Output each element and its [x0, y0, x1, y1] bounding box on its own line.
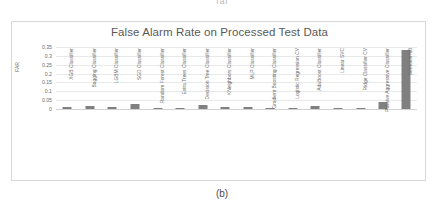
- bar-slot: [259, 47, 282, 109]
- x-label-slot: Linear SVC: [327, 110, 350, 178]
- x-tick-label: LGBM Classifier: [114, 48, 119, 112]
- x-tick-label: Random Forest Classifier: [160, 48, 165, 112]
- y-axis-ticks: 00.050.10.150.20.250.30.35: [12, 47, 54, 109]
- bar-slot: [349, 47, 372, 109]
- x-label-slot: AdaBoost Classifier: [304, 110, 327, 178]
- bar-slot: [169, 47, 192, 109]
- bar-slot: [237, 47, 260, 109]
- bar-slot: [372, 47, 395, 109]
- x-label-slot: Extra Trees Classifier: [169, 110, 192, 178]
- y-tick-label: 0.2: [45, 71, 52, 76]
- x-label-slot: SGD Classifier: [124, 110, 147, 178]
- bar-slot: [327, 47, 350, 109]
- y-tick-label: 0.05: [42, 98, 52, 103]
- y-tick-label: 0.35: [42, 45, 52, 50]
- bar-slot: [79, 47, 102, 109]
- figure-caption-above: (a): [0, 0, 444, 4]
- bar-slot: [56, 47, 79, 109]
- x-tick-label: Linear SVC: [340, 48, 345, 112]
- x-tick-label: Passive Aggressive Classifier: [385, 48, 390, 112]
- x-axis-ticks: XGB ClassifierBagging ClassifierLGBM Cla…: [56, 110, 417, 178]
- bar-slot: [146, 47, 169, 109]
- x-label-slot: Gradient Boosting Classifier: [259, 110, 282, 178]
- x-tick-label: KNeighbors Classifier: [227, 48, 232, 112]
- chart-panel: False Alarm Rate on Processed Test Data …: [11, 21, 426, 181]
- x-tick-label: Ridge Classifier CV: [363, 48, 368, 112]
- x-label-slot: Bernoulli NB: [394, 110, 417, 178]
- chart-title: False Alarm Rate on Processed Test Data: [12, 26, 427, 38]
- y-tick-label: 0.3: [45, 53, 52, 58]
- x-tick-label: Extra Trees Classifier: [182, 48, 187, 112]
- x-tick-label: AdaBoost Classifier: [317, 48, 322, 112]
- x-tick-label: Gradient Boosting Classifier: [272, 48, 277, 112]
- x-tick-label: Bagging Classifier: [92, 48, 97, 112]
- bar-slot: [394, 47, 417, 109]
- bar-slot: [282, 47, 305, 109]
- x-label-slot: Decision Tree Classifier: [191, 110, 214, 178]
- x-tick-label: Decision Tree Classifier: [205, 48, 210, 112]
- bar-slot: [304, 47, 327, 109]
- x-tick-label: Bernoulli NB: [408, 48, 413, 112]
- x-label-slot: KNeighbors Classifier: [214, 110, 237, 178]
- y-tick-label: 0: [49, 107, 52, 112]
- x-tick-label: SGD Classifier: [137, 48, 142, 112]
- bar-slot: [191, 47, 214, 109]
- x-tick-label: Logistic Regression CV: [295, 48, 300, 112]
- x-label-slot: Logistic Regression CV: [282, 110, 305, 178]
- x-label-slot: XGB Classifier: [56, 110, 79, 178]
- bar-slot: [124, 47, 147, 109]
- x-tick-label: MLP Classifier: [250, 48, 255, 112]
- bar-slot: [214, 47, 237, 109]
- x-tick-label: XGB Classifier: [69, 48, 74, 112]
- x-label-slot: Random Forest Classifier: [146, 110, 169, 178]
- y-tick-label: 0.25: [42, 62, 52, 67]
- x-label-slot: Ridge Classifier CV: [349, 110, 372, 178]
- bar-slot: [101, 47, 124, 109]
- x-label-slot: Passive Aggressive Classifier: [372, 110, 395, 178]
- x-label-slot: LGBM Classifier: [101, 110, 124, 178]
- x-label-slot: Bagging Classifier: [79, 110, 102, 178]
- x-label-slot: MLP Classifier: [237, 110, 260, 178]
- figure-caption: (b): [0, 188, 444, 199]
- y-tick-label: 0.1: [45, 89, 52, 94]
- y-tick-label: 0.15: [42, 80, 52, 85]
